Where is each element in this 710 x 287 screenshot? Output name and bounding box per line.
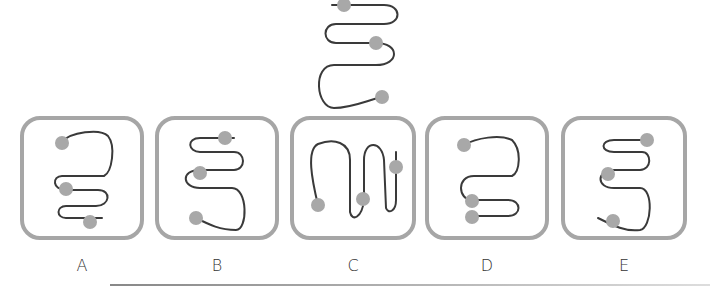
option-b[interactable] [157, 118, 277, 238]
option-c[interactable] [292, 118, 414, 238]
option-a-dot-3 [83, 215, 97, 229]
option-box [563, 118, 685, 238]
option-b-dot-1 [218, 131, 232, 145]
option-d-dot-3 [465, 210, 479, 224]
reference-dot-3 [375, 90, 389, 104]
reference-dot-2 [369, 36, 383, 50]
option-d[interactable] [427, 118, 547, 238]
puzzle-figure [0, 0, 710, 287]
option-e-dot-2 [601, 167, 615, 181]
option-b-dot-2 [193, 166, 207, 180]
option-label-b[interactable]: B [197, 256, 237, 275]
option-box [427, 118, 547, 238]
option-label-a[interactable]: A [62, 256, 102, 275]
option-d-dot-1 [457, 138, 471, 152]
puzzle-stage: A B C D E [0, 0, 710, 287]
option-box [22, 118, 142, 238]
option-e-dot-1 [640, 133, 654, 147]
reference-curve [319, 0, 398, 108]
option-b-dot-3 [189, 211, 203, 225]
option-e-dot-3 [606, 214, 620, 228]
option-a-dot-2 [59, 182, 73, 196]
option-c-dot-2 [356, 192, 370, 206]
reference-dot-1 [337, 0, 351, 12]
option-box [157, 118, 277, 238]
option-label-c[interactable]: C [333, 256, 373, 275]
option-c-dot-3 [389, 160, 403, 174]
bottom-divider [110, 284, 710, 286]
option-label-e[interactable]: E [604, 256, 644, 275]
option-c-dot-1 [311, 198, 325, 212]
option-a[interactable] [22, 118, 142, 238]
option-a-dot-1 [55, 136, 69, 150]
option-label-d[interactable]: D [467, 256, 507, 275]
option-d-dot-2 [465, 194, 479, 208]
option-figures [22, 118, 685, 238]
option-e[interactable] [563, 118, 685, 238]
